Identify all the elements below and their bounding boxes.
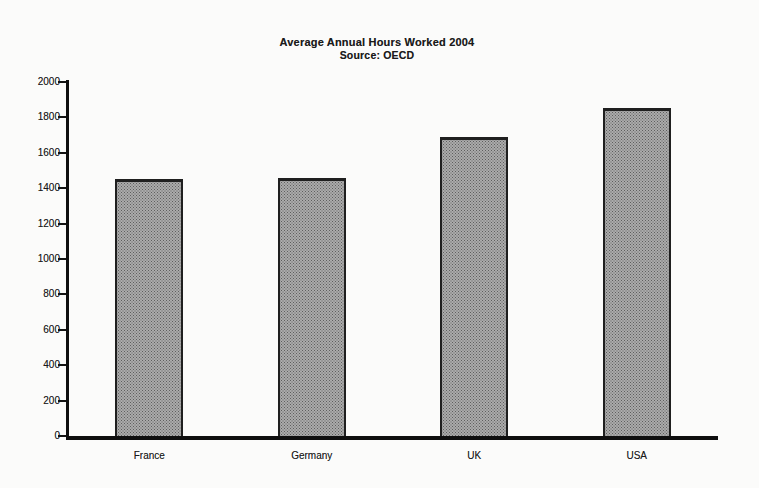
scanned-bar-chart-page: Average Annual Hours Worked 2004 Source:… [0, 0, 759, 488]
y-axis-tick-label: 0 [14, 430, 60, 442]
y-axis-tick-label: 200 [14, 395, 60, 407]
chart-subtitle: Source: OECD [57, 49, 697, 62]
y-axis-tick-mark [58, 152, 66, 154]
y-axis-tick-mark [58, 435, 66, 437]
x-axis-label-usa: USA [592, 450, 682, 462]
chart-header: Average Annual Hours Worked 2004 Source:… [57, 36, 697, 62]
bar-germany [278, 178, 346, 438]
bar-france [115, 179, 183, 438]
y-axis-tick-mark [58, 187, 66, 189]
x-axis-label-france: France [104, 450, 194, 462]
x-axis-label-germany: Germany [267, 450, 357, 462]
y-axis-tick-mark [58, 81, 66, 83]
chart-title: Average Annual Hours Worked 2004 [57, 36, 697, 49]
y-axis-tick-mark [58, 400, 66, 402]
y-axis-line [66, 80, 69, 438]
x-axis-label-uk: UK [429, 450, 519, 462]
y-axis-tick-label: 1800 [14, 111, 60, 123]
y-axis-tick-mark [58, 258, 66, 260]
y-axis-tick-mark [58, 223, 66, 225]
y-axis-tick-label: 2000 [14, 76, 60, 88]
bar-usa [603, 108, 671, 438]
y-axis-tick-mark [58, 329, 66, 331]
y-axis-tick-mark [58, 293, 66, 295]
y-axis-tick-mark [58, 116, 66, 118]
y-axis-tick-label: 1200 [14, 218, 60, 230]
y-axis-tick-label: 600 [14, 324, 60, 336]
x-axis-line [66, 436, 718, 440]
y-axis-tick-label: 1000 [14, 253, 60, 265]
y-axis-tick-label: 400 [14, 359, 60, 371]
y-axis-tick-label: 1400 [14, 182, 60, 194]
y-axis-tick-mark [58, 364, 66, 366]
bar-uk [440, 137, 508, 438]
y-axis-tick-label: 1600 [14, 147, 60, 159]
y-axis-tick-label: 800 [14, 288, 60, 300]
